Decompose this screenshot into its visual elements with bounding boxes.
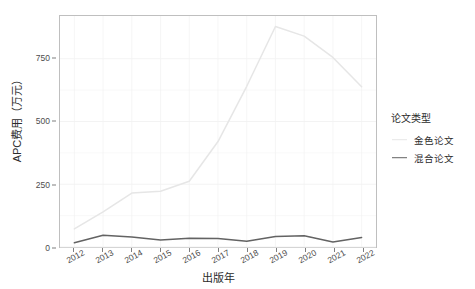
y-tick-label: 750 — [36, 53, 50, 63]
x-tick-label: 2020 — [296, 248, 317, 266]
x-tick-label: 2018 — [239, 248, 260, 266]
y-tick-mark — [52, 248, 56, 249]
y-tick-label: 250 — [36, 180, 50, 190]
x-axis-ticks: 2012201320142015201620172018201920202021… — [59, 252, 377, 268]
x-tick-mark — [334, 248, 335, 252]
series-line — [74, 235, 361, 243]
x-tick-label: 2021 — [325, 248, 346, 266]
x-tick-mark — [363, 248, 364, 252]
y-tick-label: 0 — [45, 243, 50, 253]
x-tick-label: 2022 — [354, 248, 375, 266]
x-axis-title: 出版年 — [59, 269, 377, 285]
x-tick-mark — [73, 248, 74, 252]
x-tick-label: 2016 — [181, 248, 202, 266]
plot-panel — [59, 15, 377, 248]
y-tick-mark — [52, 58, 56, 59]
x-tick-label: 2019 — [267, 248, 288, 266]
chart-figure: 0250500750 APC费用（万元） 2012201320142015201… — [0, 0, 475, 289]
x-tick-label: 2012 — [65, 248, 86, 266]
x-tick-label: 2013 — [94, 248, 115, 266]
x-tick-mark — [247, 248, 248, 252]
x-tick-mark — [160, 248, 161, 252]
x-tick-label: 2014 — [123, 248, 144, 266]
series-lines — [60, 16, 376, 247]
legend-line-icon — [391, 133, 408, 146]
legend-items: 金色论文混合论文 — [391, 132, 475, 165]
legend-item[interactable]: 金色论文 — [391, 132, 475, 147]
series-line — [74, 27, 361, 229]
x-tick-mark — [218, 248, 219, 252]
y-axis-title: APC费用（万元） — [8, 38, 24, 198]
legend-item-label: 金色论文 — [414, 133, 454, 147]
x-tick-mark — [189, 248, 190, 252]
y-tick-mark — [52, 121, 56, 122]
y-tick-label: 500 — [36, 116, 50, 126]
legend-item-label: 混合论文 — [414, 151, 454, 165]
x-tick-label: 2015 — [152, 248, 173, 266]
x-tick-mark — [305, 248, 306, 252]
legend-item[interactable]: 混合论文 — [391, 150, 475, 165]
x-tick-mark — [131, 248, 132, 252]
x-tick-mark — [276, 248, 277, 252]
legend: 论文类型 金色论文混合论文 — [391, 110, 475, 168]
x-tick-label: 2017 — [210, 248, 231, 266]
legend-title: 论文类型 — [391, 110, 475, 125]
legend-line-icon — [391, 151, 408, 164]
x-tick-mark — [102, 248, 103, 252]
y-tick-mark — [52, 184, 56, 185]
